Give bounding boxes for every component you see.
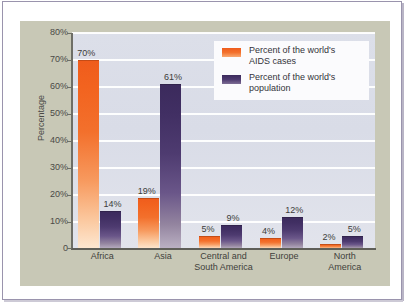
y-axis-tick-label: 50% [50, 109, 68, 118]
bar-aids-cases[interactable]: 19% [138, 198, 159, 249]
bar-top-edge [160, 84, 181, 85]
legend-label-aids-cases: Percent of the world'sAIDS cases [249, 45, 371, 67]
y-axis-tick-label: 80% [50, 28, 68, 37]
y-axis-tick [67, 222, 72, 223]
bar-value-label: 5% [201, 225, 214, 234]
x-axis-category-label: NorthAmerica [302, 251, 387, 273]
legend-swatch-population-icon [222, 75, 241, 84]
chart-legend: Percent of the world'sAIDS cases Percent… [214, 41, 369, 100]
figure-root: Percentage 80%70%60%50%40%30%20%10%0 70%… [0, 0, 405, 302]
y-axis-tick-label: 20% [50, 190, 68, 199]
legend-label-population-line1: Percent of the world's [249, 72, 335, 82]
legend-label-population-line2: population [249, 83, 291, 93]
x-axis-category-labels: AfricaAsiaCentral andSouth AmericaEurope… [72, 251, 375, 285]
y-axis-tick-label: 30% [50, 163, 68, 172]
bar-top-edge [100, 211, 121, 212]
bar-population[interactable]: 12% [282, 217, 303, 249]
y-axis-tick [67, 141, 72, 142]
y-axis-tick [67, 195, 72, 196]
bar-top-edge [78, 60, 99, 61]
y-axis-tick-label: 70% [50, 55, 68, 64]
bar-value-label: 61% [164, 73, 182, 82]
legend-label-aids-cases-line1: Percent of the world's [249, 45, 335, 55]
x-axis-category-label-line: Central and [200, 251, 247, 261]
bar-value-label: 4% [262, 227, 275, 236]
bar-value-label: 12% [285, 206, 303, 215]
bar-aids-cases[interactable]: 70% [78, 60, 99, 249]
bar-top-edge [282, 217, 303, 218]
x-axis-category-label-line: South America [194, 262, 253, 272]
y-axis-tick [67, 114, 72, 115]
y-axis-tick-label: 60% [50, 82, 68, 91]
bar-value-label: 5% [348, 225, 361, 234]
plot-frame: 70%14%19%61%5%9%4%12%2%5% Percent of the… [72, 33, 375, 249]
y-axis-tick [67, 87, 72, 88]
frame-shadow-right [402, 3, 404, 301]
y-axis-tick-label: 40% [50, 136, 68, 145]
legend-swatch-aids-cases-icon [222, 48, 241, 57]
bar-top-edge [199, 236, 220, 237]
x-axis-category-label-line: Africa [91, 251, 114, 261]
y-axis-tick [67, 33, 72, 34]
bar-top-edge [342, 236, 363, 237]
bar-top-edge [320, 244, 341, 245]
y-axis-tick [67, 60, 72, 61]
x-axis-category-label-line: North [334, 251, 356, 261]
x-axis-category-label-line: Asia [154, 251, 172, 261]
y-axis-tick [67, 168, 72, 169]
bar-top-edge [221, 225, 242, 226]
legend-label-population: Percent of the world'spopulation [249, 72, 371, 94]
bar-value-label: 9% [227, 214, 240, 223]
bar-population[interactable]: 14% [100, 211, 121, 249]
bar-group: 19%61% [138, 33, 181, 249]
x-axis-category-label-line: Europe [270, 251, 299, 261]
x-axis-line [71, 248, 376, 250]
bar-group: 70%14% [78, 33, 121, 249]
x-axis-category-label-line: America [328, 262, 361, 272]
page-frame: Percentage 80%70%60%50%40%30%20%10%0 70%… [2, 1, 402, 300]
bar-value-label: 19% [138, 187, 156, 196]
bar-top-edge [260, 238, 281, 239]
bar-population[interactable]: 9% [221, 225, 242, 249]
bar-population[interactable]: 5% [342, 236, 363, 250]
bar-aids-cases[interactable]: 5% [199, 236, 220, 250]
y-axis-tick-labels: 80%70%60%50%40%30%20%10%0 [20, 33, 68, 253]
legend-label-aids-cases-line2: AIDS cases [249, 56, 296, 66]
y-axis-tick [67, 248, 72, 249]
bar-value-label: 14% [103, 200, 121, 209]
y-axis-tick-label: 10% [50, 217, 68, 226]
bar-value-label: 70% [77, 49, 95, 58]
bar-top-edge [138, 198, 159, 199]
bar-population[interactable]: 61% [160, 84, 181, 249]
bar-value-label: 2% [323, 233, 336, 242]
chart-card: Percentage 80%70%60%50%40%30%20%10%0 70%… [20, 21, 390, 286]
